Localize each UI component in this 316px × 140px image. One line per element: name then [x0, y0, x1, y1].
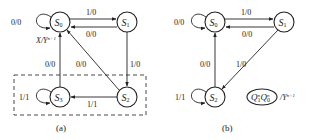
transition-s2-self [191, 89, 206, 103]
diagram-a: S0 S1 S3 S2 0/0 1/0 0/0 X/Yn+1 1/0 [11, 8, 146, 133]
state-s2: S2 [205, 87, 225, 107]
diagram-b: S0 S1 S2 0/0 1/0 0/0 1/0 0/0 1/1 [174, 8, 295, 133]
state-encoding-legend: Q1nQ0n /Yn+1 [247, 89, 295, 105]
svg-text:Q1nQ0n: Q1nQ0n [251, 92, 270, 103]
state-s1: S1 [117, 12, 137, 32]
transition-s2-s0 [67, 30, 119, 90]
label-s2-self: 1/1 [175, 93, 185, 102]
svg-text:/Yn+1: /Yn+1 [279, 93, 295, 102]
transition-s0-self [36, 14, 51, 28]
state-s0: S0 [50, 12, 70, 32]
label-s3-self: 1/1 [19, 93, 29, 102]
label-s1-s0: 0/0 [86, 30, 96, 39]
io-legend: X/Yn+1 [35, 36, 56, 45]
label-s0-s1: 1/0 [86, 8, 96, 17]
state-s3: S3 [50, 87, 70, 107]
state-s2: S2 [117, 87, 137, 107]
label-s2-s0: 0/0 [76, 60, 86, 69]
transition-s0-self [191, 14, 206, 28]
label-s2-s0: 0/0 [200, 60, 210, 69]
caption-b: (b) [222, 123, 233, 133]
state-s1: S1 [274, 12, 294, 32]
caption-a: (a) [56, 123, 66, 133]
label-s0-self: 0/0 [11, 18, 21, 27]
state-diagram-canvas: S0 S1 S3 S2 0/0 1/0 0/0 X/Yn+1 1/0 [0, 0, 316, 140]
state-s0: S0 [205, 12, 225, 32]
transition-s3-self [36, 89, 51, 103]
label-s1-s0: 0/0 [242, 30, 252, 39]
label-s0-s1: 1/0 [241, 8, 251, 17]
label-s0-self: 0/0 [174, 18, 184, 27]
label-s1-s2: 1/0 [130, 60, 140, 69]
label-s2-s3: 1/1 [87, 100, 97, 109]
label-s1-s2: 1/0 [236, 60, 246, 69]
label-s3-s0: 0/0 [45, 60, 55, 69]
